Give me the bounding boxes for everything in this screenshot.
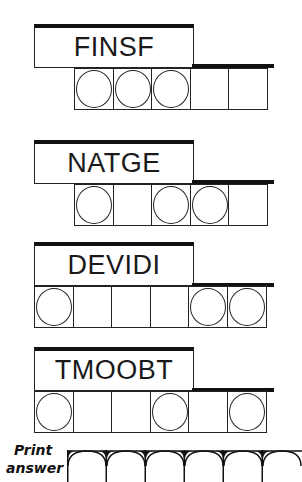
letter-cell-circled[interactable]	[188, 286, 228, 328]
final-answer-cells	[67, 450, 301, 482]
print-answer-label: Print answer	[6, 441, 60, 477]
letter-cell-circled[interactable]	[113, 68, 153, 110]
answer-cells-3	[34, 286, 267, 328]
letter-cell-circled[interactable]	[34, 391, 74, 433]
letter-cell-circled[interactable]	[151, 184, 191, 226]
letter-cell-circled[interactable]	[151, 68, 191, 110]
letter-cell[interactable]	[111, 286, 151, 328]
scrambled-word-3: DEVIDI	[34, 242, 194, 286]
final-answer-cell[interactable]	[106, 450, 145, 482]
letter-cell-circled[interactable]	[74, 184, 114, 226]
answer-cells-2	[74, 184, 268, 226]
letter-cell[interactable]	[73, 391, 113, 433]
letter-cell[interactable]	[113, 184, 153, 226]
letter-cell[interactable]	[73, 286, 113, 328]
letter-cell[interactable]	[228, 184, 268, 226]
letter-cell[interactable]	[228, 68, 268, 110]
final-answer-cell[interactable]	[223, 450, 262, 482]
letter-cell-circled[interactable]	[227, 391, 267, 433]
print-label-line1: Print	[6, 441, 60, 459]
letter-cell-circled[interactable]	[74, 68, 114, 110]
letter-cell[interactable]	[188, 391, 228, 433]
final-answer-cell[interactable]	[145, 450, 184, 482]
scrambled-word-4: TMOOBT	[34, 347, 194, 391]
letter-cell[interactable]	[111, 391, 151, 433]
print-label-line2: answer	[6, 459, 60, 477]
answer-cells-4	[34, 391, 267, 433]
letter-cell[interactable]	[150, 286, 190, 328]
answer-cells-1	[74, 68, 268, 110]
letter-cell-circled[interactable]	[150, 391, 190, 433]
scrambled-word-1: FINSF	[34, 24, 194, 68]
letter-cell-circled[interactable]	[34, 286, 74, 328]
letter-cell-circled[interactable]	[227, 286, 267, 328]
letter-cell-circled[interactable]	[190, 184, 230, 226]
final-answer-cell[interactable]	[262, 450, 301, 482]
final-answer-cell[interactable]	[184, 450, 223, 482]
scrambled-word-2: NATGE	[34, 140, 194, 184]
letter-cell[interactable]	[190, 68, 230, 110]
final-answer-cell[interactable]	[67, 450, 106, 482]
